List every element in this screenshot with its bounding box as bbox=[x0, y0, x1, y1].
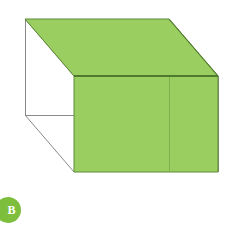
cube-top-face bbox=[25, 19, 218, 76]
option-badge-label: B bbox=[0, 204, 15, 216]
cube-front-face bbox=[74, 76, 218, 172]
cube-diagram-figure: B bbox=[0, 0, 231, 239]
cube-illustration bbox=[0, 0, 231, 239]
bottom-left-receding-edge bbox=[25, 115, 74, 172]
